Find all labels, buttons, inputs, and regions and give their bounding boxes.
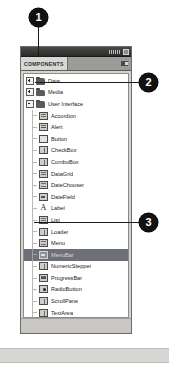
radiobutton-icon [39, 285, 48, 293]
tree-row-label: Menu [51, 240, 65, 246]
expand-icon[interactable] [26, 88, 34, 96]
tree-row-label: TextArea [51, 310, 73, 316]
label-icon: A [39, 204, 48, 212]
accordion-icon [39, 112, 48, 120]
tree-branch-line [32, 121, 39, 133]
tree-row-loader[interactable]: Loader [24, 226, 128, 238]
tree-branch-line [32, 145, 39, 157]
callout-marker-3: 3 [139, 213, 158, 232]
panel-collapse-icon[interactable] [123, 49, 129, 55]
tree-branch-line [32, 272, 39, 284]
folder-icon [36, 100, 45, 108]
tree-row-label: DateChooser [51, 182, 84, 188]
checkbox-icon [39, 146, 48, 154]
folder-icon [36, 88, 45, 96]
collapse-icon[interactable] [26, 100, 34, 108]
tree-branch-line [32, 110, 39, 122]
window-grip-icon [109, 50, 120, 54]
folder-icon [36, 77, 45, 85]
datefield-icon [39, 193, 48, 201]
tree-row-label: ComboBox [51, 159, 79, 165]
tree-row-label: CheckBox [51, 147, 77, 153]
tree-row-label: Loader [51, 229, 68, 235]
page-bottom-bar [0, 348, 169, 363]
progressbar-icon [39, 274, 48, 282]
tree-row-label: Button [51, 136, 67, 142]
tree-row-datagrid[interactable]: DataGrid [24, 168, 128, 180]
tree-row-label: MenuBar [51, 252, 74, 258]
tree-row-label: DateField [51, 194, 75, 200]
tree-row-menu[interactable]: Menu [24, 237, 128, 249]
tree-branch-line [32, 261, 39, 273]
callout-leader-2 [35, 82, 140, 83]
page-bottom-strip [0, 338, 169, 372]
panel-tab-strip: COMPONENTS [21, 57, 131, 71]
tree-row-datefield[interactable]: DateField [24, 191, 128, 203]
button-icon [39, 135, 48, 143]
tree-row-label: ScrollPane [51, 298, 78, 304]
callout-leader-1 [38, 26, 39, 57]
tree-branch-line [32, 179, 39, 191]
components-tree: DataMediaUser InterfaceAccordionAlertBut… [24, 74, 128, 318]
tree-branch-line [32, 307, 39, 318]
tree-row-label[interactable]: ALabel [24, 203, 128, 215]
menu-icon [39, 239, 48, 247]
tree-row-accordion[interactable]: Accordion [24, 110, 128, 122]
tree-row-scrollpane[interactable]: ScrollPane [24, 295, 128, 307]
tree-row-label: Media [48, 89, 63, 95]
components-tree-scroll[interactable]: DataMediaUser InterfaceAccordionAlertBut… [23, 73, 129, 318]
panel-menu-icon[interactable] [121, 61, 128, 66]
loader-icon [39, 228, 48, 236]
tab-components-label: COMPONENTS [24, 61, 64, 67]
tree-row-label: Label [51, 205, 65, 211]
tree-branch-line [32, 168, 39, 180]
tree-row-label: User Interface [48, 101, 83, 107]
tree-row-label: RadioButton [51, 286, 82, 292]
tree-row-user-interface[interactable]: User Interface [24, 98, 128, 110]
numericstepper-icon [39, 262, 48, 270]
tree-branch-line [32, 226, 39, 238]
tree-row-datechooser[interactable]: DateChooser [24, 179, 128, 191]
tree-branch-line [32, 284, 39, 296]
tree-branch-line [32, 133, 39, 145]
tree-branch-line [32, 156, 39, 168]
tree-branch-line [32, 214, 39, 226]
expand-icon[interactable] [26, 77, 34, 85]
tree-branch-line [32, 295, 39, 307]
panel-footer [21, 318, 131, 333]
tree-branch-line [32, 203, 39, 215]
alert-icon [39, 123, 48, 131]
components-panel: COMPONENTS DataMediaUser InterfaceAccord… [20, 46, 132, 334]
tree-row-combobox[interactable]: ComboBox [24, 156, 128, 168]
tab-components[interactable]: COMPONENTS [21, 57, 68, 70]
tree-row-button[interactable]: Button [24, 133, 128, 145]
tree-row-alert[interactable]: Alert [24, 121, 128, 133]
tree-row-list[interactable]: List [24, 214, 128, 226]
tree-row-textarea[interactable]: TextArea [24, 307, 128, 318]
callout-marker-1: 1 [29, 8, 48, 27]
tree-branch-line [32, 249, 39, 261]
textarea-icon [39, 309, 48, 317]
combobox-icon [39, 158, 48, 166]
tree-row-media[interactable]: Media [24, 87, 128, 99]
tree-row-checkbox[interactable]: CheckBox [24, 145, 128, 157]
tree-row-label: NumericStepper [51, 263, 91, 269]
menubar-icon [39, 251, 48, 259]
tree-row-data[interactable]: Data [24, 75, 128, 87]
tree-row-radiobutton[interactable]: RadioButton [24, 284, 128, 296]
tree-row-progressbar[interactable]: ProgressBar [24, 272, 128, 284]
datagrid-icon [39, 170, 48, 178]
tree-row-label: DataGrid [51, 171, 73, 177]
tree-branch-line [32, 237, 39, 249]
callout-marker-2: 2 [139, 73, 158, 92]
tree-branch-line [32, 191, 39, 203]
tree-row-numericstepper[interactable]: NumericStepper [24, 261, 128, 273]
tree-row-label: Accordion [51, 113, 76, 119]
datechooser-icon [39, 181, 48, 189]
tree-row-label: ProgressBar [51, 275, 82, 281]
callout-leader-3 [34, 222, 140, 223]
tree-row-label: Alert [51, 124, 63, 130]
scrollpane-icon [39, 297, 48, 305]
tree-row-menubar[interactable]: MenuBar [24, 249, 128, 261]
